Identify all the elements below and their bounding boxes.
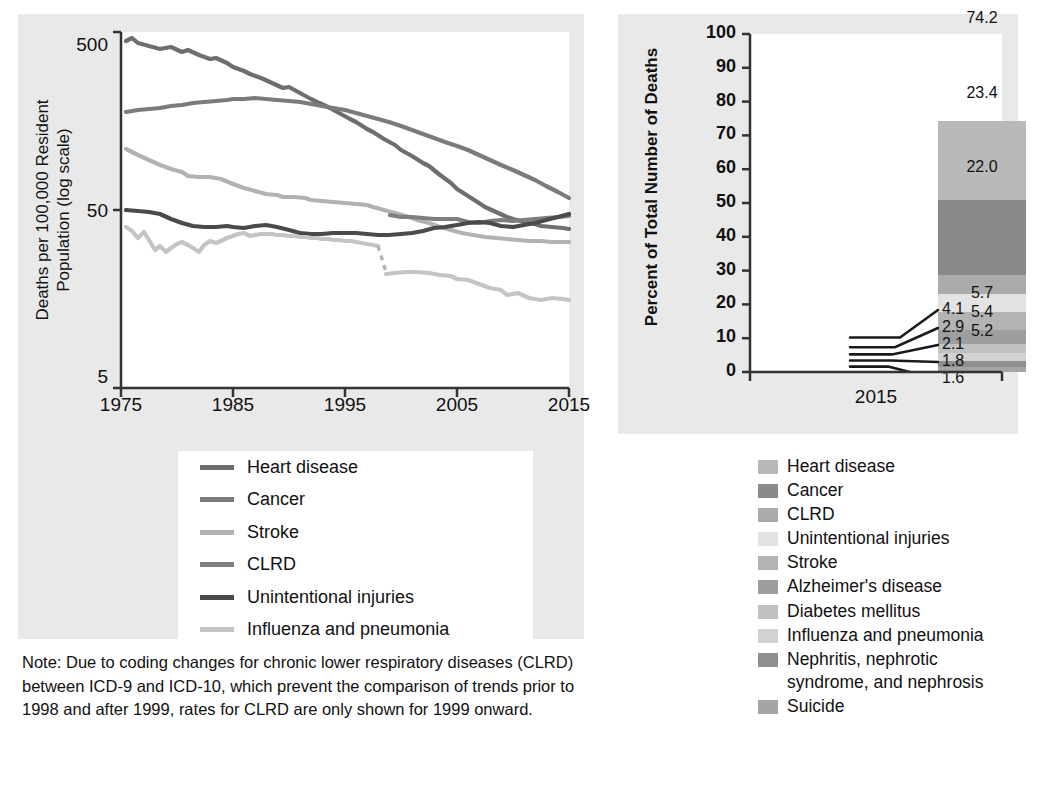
right-ytick-0: 0 xyxy=(690,360,736,381)
legend-label: Nephritis, nephrotic syndrome, and nephr… xyxy=(787,648,1012,694)
legend-label: Unintentional injuries xyxy=(787,527,949,550)
legend-item-unintentional-injuries[interactable]: Unintentional injuries xyxy=(744,527,1026,550)
left-xtick-1975: 1975 xyxy=(76,394,166,416)
right-ytick-50: 50 xyxy=(690,191,736,212)
legend-swatch-line-icon xyxy=(200,562,234,567)
legend-label: Influenza and pneumonia xyxy=(247,619,449,640)
legend-label: Heart disease xyxy=(247,457,358,478)
right-ytick-20: 20 xyxy=(690,292,736,313)
legend-swatch-box-icon xyxy=(758,629,778,643)
stacked-bar-panel: Percent of Total Number of Deaths xyxy=(618,14,1018,434)
legend-label: Diabetes mellitus xyxy=(787,600,920,623)
right-axis-lines xyxy=(742,34,1002,381)
left-chart-svg xyxy=(18,14,584,414)
legend-item-heart-disease[interactable]: Heart disease xyxy=(744,455,1026,478)
legend-item-cancer[interactable]: Cancer xyxy=(744,479,1026,502)
legend-swatch-line-icon xyxy=(200,530,234,535)
legend-item-suicide[interactable]: Suicide xyxy=(744,695,1026,718)
legend-label: Cancer xyxy=(247,489,305,510)
legend-label: Stroke xyxy=(247,522,299,543)
line-chart-legend: Heart disease Cancer Stroke CLRD Uninten… xyxy=(178,451,533,647)
right-ytick-30: 30 xyxy=(690,259,736,280)
right-chart-svg xyxy=(618,14,1018,434)
right-ytick-90: 90 xyxy=(690,56,736,77)
legend-item-nephritis[interactable]: Nephritis, nephrotic syndrome, and nephr… xyxy=(744,648,1026,694)
right-ytick-10: 10 xyxy=(690,326,736,347)
left-xtick-1985: 1985 xyxy=(188,394,278,416)
legend-swatch-box-icon xyxy=(758,460,778,474)
legend-swatch-box-icon xyxy=(758,605,778,619)
legend-item-influenza-and-pneumonia[interactable]: Influenza and pneumonia xyxy=(744,624,1026,647)
series-line-cancer xyxy=(126,98,569,198)
legend-label: Heart disease xyxy=(787,455,895,478)
series-line-influenza-pneumonia-late xyxy=(386,272,569,300)
legend-item-stroke[interactable]: Stroke xyxy=(178,516,533,549)
right-xtick-2015: 2015 xyxy=(750,386,1002,408)
chart-footnote: Note: Due to coding changes for chronic … xyxy=(22,651,582,722)
left-xtick-2005: 2005 xyxy=(412,394,502,416)
legend-swatch-line-icon xyxy=(200,497,234,502)
legend-item-influenza-and-pneumonia[interactable]: Influenza and pneumonia xyxy=(178,614,533,647)
legend-label: Suicide xyxy=(787,695,844,718)
legend-swatch-box-icon xyxy=(758,580,778,594)
legend-label: Stroke xyxy=(787,551,838,574)
legend-label: Alzheimer's disease xyxy=(787,575,942,598)
legend-swatch-line-icon xyxy=(200,627,234,632)
left-xtick-2015: 2015 xyxy=(524,394,614,416)
legend-label: CLRD xyxy=(247,554,296,575)
legend-swatch-box-icon xyxy=(758,484,778,498)
legend-swatch-box-icon xyxy=(758,508,778,522)
legend-label: Unintentional injuries xyxy=(247,587,414,608)
right-ytick-80: 80 xyxy=(690,90,736,111)
legend-item-alzheimers-disease[interactable]: Alzheimer's disease xyxy=(744,575,1026,598)
right-ytick-60: 60 xyxy=(690,157,736,178)
legend-swatch-box-icon xyxy=(758,700,778,714)
legend-swatch-line-icon xyxy=(200,465,234,470)
legend-swatch-line-icon xyxy=(200,595,234,600)
legend-item-heart-disease[interactable]: Heart disease xyxy=(178,451,533,484)
legend-item-stroke[interactable]: Stroke xyxy=(744,551,1026,574)
legend-label: CLRD xyxy=(787,503,835,526)
legend-item-unintentional-injuries[interactable]: Unintentional injuries xyxy=(178,581,533,614)
stacked-bar-legend: Heart disease Cancer CLRD Unintentional … xyxy=(744,446,1026,762)
legend-label: Influenza and pneumonia xyxy=(787,624,984,647)
line-chart-panel: Deaths per 100,000 Resident Population (… xyxy=(18,14,584,639)
legend-item-diabetes-mellitus[interactable]: Diabetes mellitus xyxy=(744,600,1026,623)
legend-item-cancer[interactable]: Cancer xyxy=(178,484,533,517)
right-ytick-40: 40 xyxy=(690,225,736,246)
legend-swatch-box-icon xyxy=(758,532,778,546)
series-line-influenza-break-dash xyxy=(378,246,386,272)
legend-label: Cancer xyxy=(787,479,843,502)
right-ytick-70: 70 xyxy=(690,123,736,144)
series-line-influenza-pneumonia-early xyxy=(126,227,378,252)
legend-swatch-box-icon xyxy=(758,653,778,667)
right-ytick-100: 100 xyxy=(690,22,736,43)
legend-item-clrd[interactable]: CLRD xyxy=(744,503,1026,526)
left-xtick-1995: 1995 xyxy=(300,394,390,416)
series-line-heart-disease xyxy=(126,38,569,229)
legend-item-clrd[interactable]: CLRD xyxy=(178,549,533,582)
legend-swatch-box-icon xyxy=(758,556,778,570)
